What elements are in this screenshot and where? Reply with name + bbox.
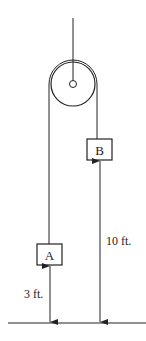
dimension-label-b: 10 ft.	[106, 234, 131, 248]
block-b-label: B	[95, 143, 104, 158]
block-b: B	[87, 139, 112, 160]
pulley-axle	[70, 81, 77, 88]
dimension-label-a: 3 ft.	[24, 287, 43, 301]
block-a-label: A	[45, 248, 55, 263]
pulley-diagram: B A 10 ft. 3 ft.	[0, 0, 146, 341]
block-a: A	[37, 244, 62, 265]
